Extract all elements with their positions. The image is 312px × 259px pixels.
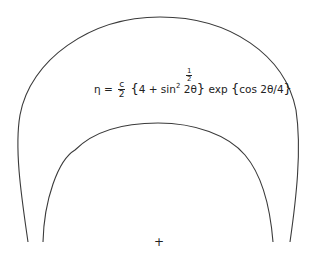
formula: η = c 2 {4 + sin2 2θ} exp {cos 2θ/4} [94, 80, 292, 99]
contour-figure [0, 0, 312, 259]
formula-lhs: η = [94, 83, 113, 95]
power-fraction: 1 2 [186, 68, 192, 83]
origin-marker: + [154, 235, 164, 249]
coefficient-fraction: c 2 [118, 80, 125, 99]
outer-contour [18, 17, 299, 242]
inner-contour [43, 123, 273, 242]
